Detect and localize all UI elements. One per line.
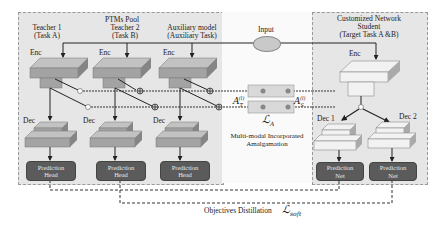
- distillation-loss-label: ℒsoft: [282, 203, 301, 217]
- teacher1-dec-label: Dec: [23, 117, 35, 125]
- student-decoder2-block: [368, 122, 416, 148]
- attention-student-label: AS(l): [294, 95, 309, 108]
- input-node: [253, 36, 281, 52]
- student-prediction-net-1: Prediction Net: [316, 162, 364, 181]
- head-line2: Head: [178, 171, 192, 179]
- head-line1: Prediction: [172, 164, 199, 172]
- teacher2-prediction-head: Prediction Head: [96, 161, 146, 181]
- teacher1-enc-label: Enc: [30, 49, 42, 57]
- student-dec1-label: Dec 1: [317, 115, 335, 123]
- student-task: (Target Task A &B): [315, 31, 423, 39]
- net-line2: Net: [388, 172, 397, 180]
- input-label: Input: [246, 26, 286, 34]
- head-line2: Head: [44, 171, 58, 179]
- teacher2-task: (Task B): [100, 32, 150, 40]
- distillation-label: Objectives Distillation: [204, 207, 272, 215]
- head-line1: Prediction: [108, 164, 135, 172]
- teacher2-dec-label: Dec: [83, 117, 95, 125]
- net-line2: Net: [335, 172, 344, 180]
- auxiliary-task: (Auxiliary Task): [160, 32, 224, 40]
- teacher1-encoder-block: [30, 58, 88, 88]
- student-encoder-block: [340, 61, 400, 96]
- auxiliary-encoder-block: [159, 58, 217, 88]
- head-line1: Prediction: [38, 164, 65, 172]
- auxiliary-decoder-block: [156, 122, 208, 147]
- net-line1: Prediction: [380, 164, 407, 172]
- teacher2-enc-label: Enc: [99, 49, 111, 57]
- teacher1-decoder-block: [25, 122, 77, 147]
- auxiliary-prediction-head: Prediction Head: [160, 161, 210, 181]
- amalgamation-caption-1: Multi-modal Incorporated: [226, 132, 308, 140]
- net-line1: Prediction: [327, 164, 354, 172]
- amalgamation-loss-label: ℒA: [262, 113, 274, 127]
- student-dec2-label: Dec 2: [399, 113, 417, 121]
- teacher1-task: (Task A): [22, 32, 72, 40]
- teacher2-decoder-block: [90, 122, 142, 147]
- teacher2-encoder-block: [93, 58, 151, 88]
- auxiliary-dec-label: Dec: [153, 117, 165, 125]
- student-decoder1-block: [314, 124, 362, 150]
- attention-teacher-label: AT(l): [233, 95, 248, 108]
- teacher1-prediction-head: Prediction Head: [26, 161, 76, 181]
- amalgamation-caption-2: Amalgamation: [226, 140, 308, 148]
- auxiliary-enc-label: Enc: [163, 49, 175, 57]
- student-enc-label: Enc: [349, 50, 361, 58]
- student-prediction-net-2: Prediction Net: [369, 162, 417, 181]
- head-line2: Head: [114, 171, 128, 179]
